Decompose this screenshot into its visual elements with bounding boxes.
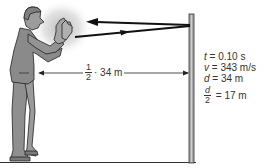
returning-arrow xyxy=(86,18,190,26)
wall-post xyxy=(189,14,194,163)
variable-v: v = 343 m/s xyxy=(204,62,256,73)
echo-diagram: 1 2 · 34 m t = 0.10 s v = 343 m/s d = 34… xyxy=(0,0,265,168)
variable-t: t = 0.10 s xyxy=(204,51,256,62)
variable-d: d = 34 m xyxy=(204,73,256,84)
outgoing-arrow xyxy=(75,26,190,37)
variable-half-d: d 2 = 17 m xyxy=(204,86,256,105)
distance-label: 1 2 · 34 m xyxy=(83,63,124,82)
half-fraction: 1 2 xyxy=(85,63,92,82)
variables-list: t = 0.10 s v = 343 m/s d = 34 m d 2 = 17… xyxy=(204,51,256,105)
distance-value: · 34 m xyxy=(94,67,122,78)
